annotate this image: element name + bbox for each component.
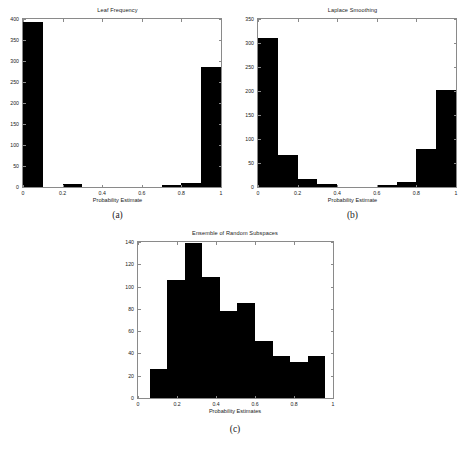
- y-tick-mark: [258, 163, 261, 164]
- y-tick-label: 350: [239, 16, 254, 22]
- bars-container-a: [23, 19, 221, 187]
- y-tick-mark-right: [454, 163, 457, 164]
- histogram-bar: [377, 185, 397, 187]
- x-tick-mark-top: [337, 19, 338, 22]
- histogram-bar: [397, 182, 417, 187]
- subfigure-c: Ensemble of Random Subspaces 00.20.40.60…: [110, 228, 360, 458]
- y-tick-label: 300: [4, 58, 19, 64]
- histogram-bar: [308, 356, 326, 398]
- y-tick-label: 150: [239, 112, 254, 118]
- x-tick-label: 0.8: [413, 190, 420, 196]
- y-tick-mark: [138, 398, 141, 399]
- histogram-bar: [416, 149, 436, 187]
- x-axis-label-a: Probability Estimate: [0, 197, 235, 203]
- y-tick-mark-right: [331, 242, 334, 243]
- y-tick-mark: [23, 103, 26, 104]
- y-tick-label: 100: [4, 142, 19, 148]
- x-tick-mark-top: [177, 242, 178, 245]
- x-tick-label: 0.2: [59, 190, 66, 196]
- y-tick-label: 40: [119, 350, 134, 356]
- x-tick-label: 0: [137, 401, 140, 407]
- x-tick-mark: [102, 185, 103, 188]
- y-tick-mark-right: [331, 376, 334, 377]
- y-tick-mark-right: [219, 103, 222, 104]
- x-tick-mark: [456, 185, 457, 188]
- y-tick-mark-right: [331, 331, 334, 332]
- y-tick-mark-right: [219, 166, 222, 167]
- y-tick-label: 200: [4, 100, 19, 106]
- x-tick-label: 0.2: [294, 190, 301, 196]
- y-tick-mark-right: [454, 139, 457, 140]
- x-axis-label-c: Probability Estimates: [110, 408, 360, 414]
- histogram-bar: [290, 362, 308, 398]
- y-tick-label: 200: [239, 88, 254, 94]
- y-tick-mark-right: [454, 115, 457, 116]
- subfigure-label-b: (b): [235, 210, 470, 220]
- y-tick-mark-right: [331, 398, 334, 399]
- histogram-bar: [185, 243, 203, 398]
- y-tick-mark: [138, 353, 141, 354]
- x-tick-mark: [216, 396, 217, 399]
- y-tick-mark-right: [454, 67, 457, 68]
- y-tick-label: 300: [239, 40, 254, 46]
- y-tick-mark-right: [219, 40, 222, 41]
- histogram-bar: [150, 369, 168, 398]
- subfigure-label-a: (a): [0, 210, 235, 220]
- x-tick-mark: [294, 396, 295, 399]
- plot-area-b: [257, 18, 457, 188]
- bars-container-b: [258, 19, 456, 187]
- x-tick-mark: [221, 185, 222, 188]
- y-tick-mark: [138, 287, 141, 288]
- y-tick-mark: [258, 187, 261, 188]
- y-tick-label: 50: [4, 163, 19, 169]
- y-tick-label: 350: [4, 37, 19, 43]
- x-tick-label: 0.8: [178, 190, 185, 196]
- x-tick-mark-top: [142, 19, 143, 22]
- y-tick-label: 80: [119, 306, 134, 312]
- x-axis-label-b: Probability Estimate: [235, 197, 470, 203]
- y-tick-mark-right: [331, 353, 334, 354]
- y-tick-label: 150: [4, 121, 19, 127]
- y-tick-label: 400: [4, 16, 19, 22]
- x-tick-label: 0.6: [251, 401, 258, 407]
- x-tick-mark: [255, 396, 256, 399]
- chart-title-c: Ensemble of Random Subspaces: [110, 230, 360, 236]
- y-tick-mark: [23, 145, 26, 146]
- plot-area-c: [137, 241, 334, 399]
- histogram-bar: [181, 183, 201, 187]
- y-tick-label: 140: [119, 239, 134, 245]
- x-tick-mark: [63, 185, 64, 188]
- y-tick-mark-right: [219, 145, 222, 146]
- y-tick-mark: [258, 139, 261, 140]
- x-tick-mark-top: [63, 19, 64, 22]
- histogram-bar: [162, 185, 182, 187]
- x-tick-label: 0.2: [173, 401, 180, 407]
- histogram-bar: [63, 184, 83, 187]
- y-tick-label: 60: [119, 328, 134, 334]
- y-tick-label: 20: [119, 373, 134, 379]
- y-tick-mark-right: [219, 82, 222, 83]
- y-tick-mark: [23, 166, 26, 167]
- y-tick-label: 120: [119, 261, 134, 267]
- x-tick-label: 1: [332, 401, 335, 407]
- histogram-bar: [23, 22, 43, 187]
- y-tick-mark: [258, 91, 261, 92]
- plot-area-a: [22, 18, 222, 188]
- x-tick-mark-top: [416, 19, 417, 22]
- bars-container-c: [138, 242, 333, 398]
- x-tick-mark-top: [377, 19, 378, 22]
- y-tick-mark: [138, 331, 141, 332]
- y-tick-mark: [138, 242, 141, 243]
- y-tick-mark: [258, 115, 261, 116]
- x-tick-mark: [377, 185, 378, 188]
- x-tick-mark: [333, 396, 334, 399]
- x-tick-label: 0: [257, 190, 260, 196]
- y-tick-mark-right: [331, 264, 334, 265]
- y-tick-mark: [23, 40, 26, 41]
- histogram-bar: [298, 179, 318, 187]
- x-tick-mark-top: [181, 19, 182, 22]
- y-tick-mark: [138, 264, 141, 265]
- y-tick-mark-right: [219, 19, 222, 20]
- y-tick-mark: [23, 82, 26, 83]
- x-tick-label: 0.4: [334, 190, 341, 196]
